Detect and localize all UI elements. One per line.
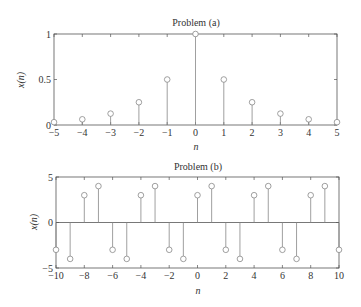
y-tick-label: 0 (46, 120, 51, 131)
x-tick-label: −6 (107, 270, 118, 281)
stem-marker (336, 247, 342, 253)
x-tick-label: 4 (306, 127, 311, 138)
x-tick-label: 10 (334, 270, 344, 281)
stem-marker (181, 256, 187, 262)
y-tick-label: 5 (48, 172, 53, 183)
plot-b-xlabel: n (196, 285, 201, 296)
stem-marker (308, 192, 314, 198)
x-tick-label: −4 (77, 127, 88, 138)
figure: Problem (a) −5−4−3−2−101234500.51 n x(n)… (0, 0, 361, 307)
stem-marker (306, 117, 312, 123)
x-tick-label: 2 (250, 127, 255, 138)
stem-marker (124, 256, 130, 262)
stem-marker (138, 192, 144, 198)
plot-b-title: Problem (b) (174, 161, 222, 173)
plot-a-ylabel: x(n) (15, 71, 27, 89)
stem-marker (278, 111, 284, 117)
stem-marker (164, 77, 170, 83)
x-tick-label: 3 (278, 127, 283, 138)
plot-problem-a: Problem (a) −5−4−3−2−101234500.51 n x(n) (15, 17, 340, 152)
x-tick-label: 8 (308, 270, 313, 281)
stem-marker (82, 192, 88, 198)
stem-marker (251, 192, 257, 198)
stem-marker (280, 247, 286, 253)
stem-marker (108, 111, 114, 117)
stem-marker (152, 183, 158, 189)
stem-marker (265, 183, 271, 189)
stem-marker (110, 247, 116, 253)
plot-b-stems (53, 183, 342, 261)
stem-marker (223, 247, 229, 253)
plot-a-xlabel: n (194, 141, 199, 152)
x-tick-label: 6 (280, 270, 285, 281)
stem-marker (67, 256, 73, 262)
stem-marker (51, 119, 57, 125)
stem-marker (53, 247, 59, 253)
x-tick-label: −2 (164, 270, 175, 281)
x-tick-label: 2 (223, 270, 228, 281)
x-tick-label: 0 (193, 127, 198, 138)
x-tick-label: −8 (79, 270, 90, 281)
stem-marker (249, 99, 255, 105)
plot-a-stems (51, 31, 340, 125)
stem-marker (209, 183, 215, 189)
plot-b-ylabel: x(n) (28, 213, 40, 231)
x-tick-label: 0 (195, 270, 200, 281)
plot-problem-b: Problem (b) −10−8−6−4−20246810−505 n x(n… (28, 161, 344, 296)
x-tick-label: 4 (252, 270, 257, 281)
stem-marker (322, 183, 328, 189)
stem-marker (136, 99, 142, 105)
stem-marker (237, 256, 243, 262)
y-tick-label: 0 (48, 217, 53, 228)
stem-marker (80, 117, 86, 123)
stem-marker (294, 256, 300, 262)
stem-marker (334, 119, 340, 125)
x-tick-label: −4 (136, 270, 147, 281)
x-tick-label: 5 (335, 127, 340, 138)
x-tick-label: −3 (105, 127, 116, 138)
x-tick-label: −2 (134, 127, 145, 138)
stem-marker (221, 77, 227, 83)
stem-marker (96, 183, 102, 189)
plot-b-ticks: −10−8−6−4−20246810−505 (42, 172, 344, 282)
stem-marker (195, 192, 201, 198)
plot-a-title: Problem (a) (172, 17, 220, 29)
x-tick-label: 1 (221, 127, 226, 138)
y-tick-label: 1 (46, 29, 51, 40)
stem-marker (166, 247, 172, 253)
x-tick-label: −1 (162, 127, 173, 138)
stem-marker (193, 31, 199, 37)
y-tick-label: −5 (42, 263, 53, 274)
y-tick-label: 0.5 (39, 74, 52, 85)
